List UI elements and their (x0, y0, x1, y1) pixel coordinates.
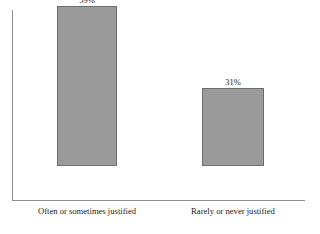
bar-group: 59% (57, 6, 117, 166)
x-axis-tick-label: Rarely or never justified (168, 206, 298, 217)
bar-value-label: 59% (57, 0, 117, 5)
bar-value-label: 31% (202, 77, 264, 87)
x-axis-tick-label: Often or sometimes justified (17, 206, 157, 217)
bar[interactable] (202, 88, 264, 166)
y-axis-line (12, 10, 13, 201)
bar[interactable] (57, 6, 117, 166)
bar-group: 31% (202, 88, 264, 166)
plot-area: 59% 31% (0, 0, 320, 200)
bar-chart: 59% 31% Often or sometimes justified Rar… (0, 0, 320, 234)
x-axis-line (12, 200, 305, 201)
